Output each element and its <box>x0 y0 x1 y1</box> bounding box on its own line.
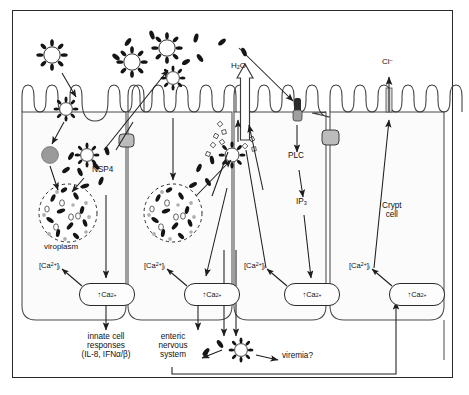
virion-extracellular-4 <box>161 66 186 91</box>
virion-basolateral <box>229 338 254 363</box>
label-nsp4: NSP4 <box>92 166 113 175</box>
tight-junction-2 <box>322 130 339 145</box>
calcium-pool-label-2: [Ca2+]i <box>144 262 165 271</box>
endosome <box>42 147 59 164</box>
nsp4-receptor <box>293 98 302 121</box>
virion-apical-release <box>219 142 246 169</box>
calcium-pool-label-4: [Ca2+]i <box>349 262 370 271</box>
label-crypt-cell: Cryptcell <box>382 202 402 220</box>
label-plc: PLC <box>288 152 304 161</box>
label-h2o: H2O <box>231 62 246 71</box>
label-viroplasm: viroplasm <box>44 243 78 252</box>
label-ip3: IP3 <box>296 198 307 207</box>
label-chloride: Cl– <box>382 58 393 67</box>
arrow-viremia <box>256 355 278 360</box>
calcium-pool-label-1: [Ca2+]i <box>39 262 60 271</box>
virion-extracellular-2 <box>116 46 147 77</box>
diagram-canvas: H2O Cl– NSP4 viroplasm PLC IP3 Cryptcell… <box>0 0 469 395</box>
calcium-box-2: ↑Ca2+ <box>184 283 240 306</box>
calcium-box-1: ↑Ca2+ <box>79 283 135 306</box>
label-viremia: viremia? <box>282 352 313 361</box>
virion-extracellular-1 <box>36 39 67 70</box>
calcium-pool-label-3: [Ca2+]i <box>244 262 265 271</box>
viroplasm-cell-1 <box>39 184 97 242</box>
virion-entering-1 <box>54 97 79 122</box>
viroplasm-cell-2 <box>144 184 202 242</box>
calcium-box-4: ↑Ca2+ <box>389 283 445 306</box>
chloride-channel <box>386 77 392 112</box>
label-innate-responses: innate cellresponses(IL-8, IFNα/β) <box>56 333 156 360</box>
virion-extracellular-3 <box>151 32 182 63</box>
calcium-box-3: ↑Ca2+ <box>284 283 340 306</box>
